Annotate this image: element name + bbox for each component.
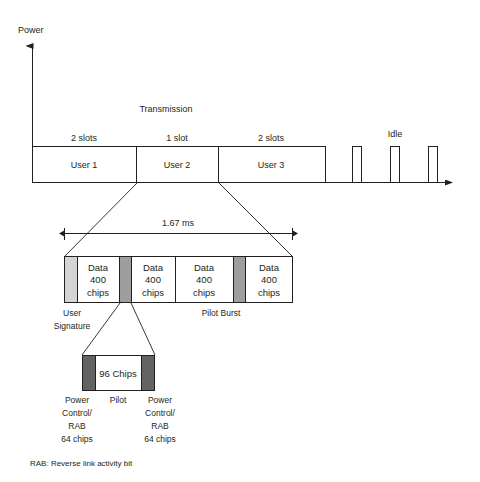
data-4-line1: Data [259,262,280,273]
detail-right-line2: Control/ [145,408,175,418]
detail-left-line2: Control/ [62,408,92,418]
user-signature-caption-line1: User [63,308,81,318]
data-3-line3: chips [193,287,215,298]
idle-label: Idle [388,129,403,139]
detail-left-line4: 64 chips [61,434,93,444]
detail-center-caption: Pilot [110,395,127,405]
slot-duration-3: 2 slots [258,133,285,143]
detail-left-line3: RAB [68,421,86,431]
data-2-line3: chips [142,287,164,298]
diagram-text-layer: Power Transmission Idle 2 slots 1 slot 2… [0,0,480,482]
data-3-line2: 400 [196,274,212,285]
slot-user-label-2: User 2 [164,160,191,170]
data-4-line2: 400 [261,274,277,285]
data-2-line1: Data [143,262,164,273]
slot-duration-1: 2 slots [71,133,98,143]
detail-right-line4: 64 chips [144,434,176,444]
slot-duration-2: 1 slot [166,133,188,143]
data-4-line3: chips [258,287,280,298]
detail-right-line3: RAB [151,421,169,431]
slot-user-label-3: User 3 [258,160,285,170]
slot-user-label-1: User 1 [71,160,98,170]
pilot-burst-caption: Pilot Burst [202,308,241,318]
transmission-label: Transmission [139,104,192,114]
data-3-line1: Data [194,262,215,273]
data-1-line2: 400 [90,274,106,285]
frame-duration-label: 1.67 ms [162,218,195,228]
detail-left-line1: Power [65,395,89,405]
y-axis-label: Power [18,25,44,35]
data-1-line1: Data [88,262,109,273]
cdma-frame-diagram: Power Transmission Idle 2 slots 1 slot 2… [0,0,480,482]
detail-right-line1: Power [148,395,172,405]
data-1-line3: chips [87,287,109,298]
data-2-line2: 400 [145,274,161,285]
footnote: RAB: Reverse link activity bit [30,459,133,468]
user-signature-caption-line2: Signature [54,321,91,331]
detail-center-label: 96 Chips [99,368,137,379]
